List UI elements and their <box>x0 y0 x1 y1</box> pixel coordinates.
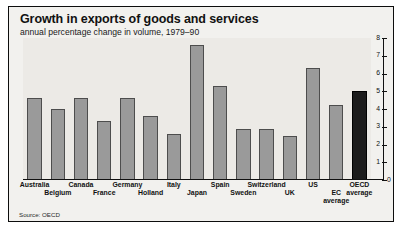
bar-oecd-average <box>352 91 366 180</box>
bar-sweden <box>236 129 250 180</box>
chart-inner-panel: Growth in exports of goods and services … <box>9 7 393 221</box>
y-axis-tick <box>382 91 387 92</box>
y-axis-tick <box>382 38 387 39</box>
category-label-france: France <box>93 189 116 197</box>
category-label-sweden: Sweden <box>230 189 256 197</box>
category-label-switzerland: Switzerland <box>247 181 285 189</box>
category-label-australia: Australia <box>20 181 50 189</box>
y-axis-tick-label: 7 <box>371 52 380 59</box>
category-label-belgium: Belgium <box>44 189 71 197</box>
bar-france <box>97 121 111 180</box>
bar-australia <box>27 98 41 180</box>
y-axis-tick <box>382 56 387 57</box>
y-axis-tick <box>382 127 387 128</box>
bar-belgium <box>51 109 65 180</box>
category-label-spain: Spain <box>211 181 230 189</box>
bar-us <box>306 68 320 180</box>
bar-holland <box>143 116 157 180</box>
category-label-holland: Holland <box>138 189 163 197</box>
category-label-oecd-average: OECDaverage <box>346 181 372 196</box>
category-label-japan: Japan <box>187 189 207 197</box>
y-axis-tick-label: 3 <box>371 123 380 130</box>
chart-title: Growth in exports of goods and services <box>20 12 259 26</box>
y-axis-tick-label: 1 <box>371 159 380 166</box>
y-axis-tick-label: 4 <box>371 106 380 113</box>
y-axis-tick <box>382 109 387 110</box>
chart-subtitle: annual percentage change in volume, 1979… <box>20 27 199 37</box>
category-label-canada: Canada <box>69 181 94 189</box>
category-label-uk: UK <box>285 189 295 197</box>
y-axis-tick-label: 5 <box>371 88 380 95</box>
bar-uk <box>283 136 297 180</box>
category-label-germany: Germany <box>112 181 142 189</box>
bar-italy <box>167 134 181 180</box>
bar-spain <box>213 86 227 180</box>
y-axis-tick <box>382 162 387 163</box>
chart-figure: Growth in exports of goods and services … <box>8 6 394 222</box>
y-axis: 012345678 <box>383 38 385 180</box>
chart-source: Source: OECD <box>19 211 60 218</box>
category-label-us: US <box>308 181 318 189</box>
y-axis-tick-label: 6 <box>371 70 380 77</box>
bar-japan <box>190 45 204 180</box>
bar-ec-average <box>329 105 343 180</box>
y-axis-tick-label: 2 <box>371 141 380 148</box>
category-labels: AustraliaBelgiumCanadaFranceGermanyHolla… <box>9 181 395 221</box>
plot-area <box>23 38 371 180</box>
y-axis-tick <box>382 74 387 75</box>
category-label-ec-average: ECaverage <box>323 189 349 204</box>
y-axis-tick-label: 8 <box>371 35 380 42</box>
bar-canada <box>74 98 88 180</box>
category-label-italy: Italy <box>167 181 181 189</box>
bar-germany <box>120 98 134 180</box>
y-axis-tick <box>382 145 387 146</box>
bar-switzerland <box>259 129 273 180</box>
